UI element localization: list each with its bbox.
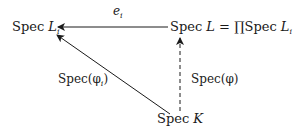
label-text: Spec(φ) [191, 72, 239, 86]
label-spec-phi: Spec(φ) [191, 72, 239, 86]
label-text: Spec(φ [58, 72, 101, 86]
equals-sign: = [215, 19, 234, 34]
spec-text: Spec [157, 111, 193, 126]
close-paren: ) [103, 72, 108, 86]
spec-text: Spec [12, 19, 48, 34]
label-e-i: ei [113, 4, 123, 23]
node-spec-l-i: Spec Li [12, 20, 60, 39]
var-l: L [206, 19, 215, 34]
product-symbol: ∏ [234, 19, 244, 34]
subscript-i: i [57, 27, 60, 36]
spec-text: Spec [170, 19, 206, 34]
node-spec-l-product: Spec L = ∏Spec Li [170, 20, 292, 39]
subscript-i: i [290, 27, 293, 36]
var-l: L [48, 19, 57, 34]
spec-text: Spec [245, 19, 281, 34]
subscript-i: i [120, 11, 123, 20]
node-spec-k: Spec K [157, 112, 203, 126]
var-l: L [281, 19, 290, 34]
label-spec-phi-i: Spec(φi) [58, 72, 108, 91]
var-k: K [193, 111, 203, 126]
